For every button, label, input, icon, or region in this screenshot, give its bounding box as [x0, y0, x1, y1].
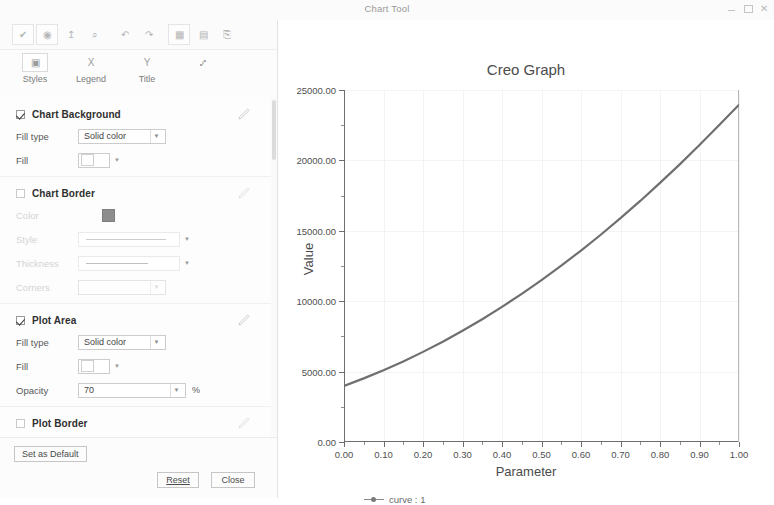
plot-area-title: Plot Area: [32, 315, 76, 326]
x-axis-tick-label: 0.80: [651, 449, 670, 460]
chart-title: Creo Graph: [278, 61, 774, 78]
legend-label: curve : 1: [389, 494, 425, 505]
x-axis-tick: [542, 442, 543, 447]
chart-background-filltype-value: Solid color: [84, 131, 126, 141]
chevron-down-icon[interactable]: ▼: [114, 157, 120, 163]
scrollbar-thumb[interactable]: [272, 100, 276, 160]
x-axis-title: Parameter: [278, 464, 774, 479]
redo-icon[interactable]: ↷: [138, 24, 160, 45]
x-axis-minor-tick: [561, 442, 562, 445]
chart-border-checkbox[interactable]: [16, 189, 25, 198]
tab-title-label: Title: [139, 74, 156, 84]
plot-area-opacity-label: Opacity: [16, 385, 78, 396]
x-axis-tick-label: 0.70: [611, 449, 630, 460]
tab-format[interactable]: ⑇: [182, 53, 224, 84]
panel-tabs: ▣ Styles X Legend Y Title ⑇: [0, 50, 277, 99]
group-chart-background: Chart Background Fill type Solid color ▼…: [0, 98, 277, 176]
plot-area-fill-swatch[interactable]: [78, 359, 110, 374]
apply-check-icon[interactable]: ✔: [12, 24, 34, 45]
title-y-icon: Y: [134, 53, 160, 72]
plot-area-header[interactable]: Plot Area: [0, 312, 277, 328]
set-as-default-button[interactable]: Set as Default: [14, 446, 87, 462]
plot-area-opacity-value: 70: [84, 385, 94, 395]
legend-x-icon: X: [78, 53, 104, 72]
chart-border-style-row: Style ▼: [0, 229, 277, 249]
chart-border-color-row: Color: [0, 205, 277, 225]
plot-area-opacity-input[interactable]: 70 ▼: [78, 383, 186, 398]
data-table-icon[interactable]: ▤: [192, 24, 214, 45]
chevron-down-icon: ▼: [150, 336, 162, 349]
x-axis-tick: [463, 442, 464, 447]
y-axis-title: Value: [301, 243, 316, 275]
x-axis-tick: [344, 442, 345, 447]
chart-border-title: Chart Border: [32, 188, 95, 199]
chart-background-edit-icon[interactable]: [237, 107, 251, 121]
chart-background-fill-label: Fill: [16, 155, 78, 166]
x-axis-tick-label: 1.00: [730, 449, 749, 460]
chart-border-header[interactable]: Chart Border: [0, 185, 277, 201]
reset-button[interactable]: Reset: [157, 472, 199, 488]
x-axis-minor-tick: [364, 442, 365, 445]
chevron-down-icon: ▼: [184, 236, 190, 242]
x-axis-tick-label: 0.40: [493, 449, 512, 460]
reset-button-label: Reset: [166, 475, 190, 485]
axis-scale-icon[interactable]: ↥: [60, 24, 82, 45]
chart-background-fill-swatch[interactable]: [78, 153, 110, 168]
plot-area-filltype-value: Solid color: [84, 337, 126, 347]
chevron-down-icon[interactable]: ▼: [114, 363, 120, 369]
table-view-icon[interactable]: ▦: [168, 24, 190, 45]
x-axis-tick-label: 0.50: [532, 449, 551, 460]
x-axis-minor-tick: [443, 442, 444, 445]
export-icon[interactable]: ⎘: [216, 24, 238, 45]
x-axis-minor-tick: [522, 442, 523, 445]
close-button[interactable]: Close: [211, 472, 255, 488]
close-icon[interactable]: ✕: [759, 4, 768, 13]
plot-border-header[interactable]: Plot Border: [0, 415, 277, 431]
panel-scrollbar[interactable]: [271, 98, 277, 458]
grid-target-icon[interactable]: ◉: [36, 24, 58, 45]
x-axis-tick: [423, 442, 424, 447]
zoom-icon[interactable]: ⌕: [84, 24, 106, 45]
plot-area-edit-icon[interactable]: [237, 313, 251, 327]
maximize-icon[interactable]: [743, 4, 752, 13]
grid-line-vertical: [739, 90, 740, 442]
window-controls: ✕: [727, 4, 768, 13]
chart-border-color-label: Color: [16, 210, 78, 221]
tab-styles-label: Styles: [23, 74, 48, 84]
plot-area-checkbox[interactable]: [16, 316, 25, 325]
chart-background-filltype-select[interactable]: Solid color ▼: [78, 129, 166, 144]
chart-border-edit-icon[interactable]: [237, 186, 251, 200]
chart-background-header[interactable]: Chart Background: [0, 106, 277, 122]
chevron-down-icon: ▼: [150, 130, 162, 143]
plot-area-filltype-select[interactable]: Solid color ▼: [78, 335, 166, 350]
x-axis-minor-tick: [403, 442, 404, 445]
x-axis-tick: [621, 442, 622, 447]
chart-background-filltype-label: Fill type: [16, 131, 78, 142]
title-bar: Chart Tool ✕: [0, 0, 774, 21]
chart-border-corners-label: Corners: [16, 282, 78, 293]
x-axis-tick: [700, 442, 701, 447]
undo-icon[interactable]: ↶: [114, 24, 136, 45]
plot-border-checkbox[interactable]: [16, 419, 25, 428]
chart-background-title: Chart Background: [32, 109, 121, 120]
tab-styles[interactable]: ▣ Styles: [14, 53, 56, 84]
format-icon: ⑇: [190, 53, 216, 72]
plot-border-title: Plot Border: [32, 418, 88, 429]
chart-background-checkbox[interactable]: [16, 110, 25, 119]
x-axis-minor-tick: [719, 442, 720, 445]
x-axis-tick: [502, 442, 503, 447]
chart-border-style-label: Style: [16, 234, 78, 245]
group-chart-border: Chart Border Color Style ▼ Thickness: [0, 176, 277, 303]
tab-legend[interactable]: X Legend: [70, 53, 112, 84]
plot-border-edit-icon[interactable]: [237, 416, 251, 430]
chart-border-corners-row: Corners ▼: [0, 277, 277, 297]
color-swatch: [81, 154, 94, 166]
tab-legend-label: Legend: [76, 74, 106, 84]
plot-area-fill-label: Fill: [16, 361, 78, 372]
x-axis-minor-tick: [640, 442, 641, 445]
tab-title[interactable]: Y Title: [126, 53, 168, 84]
minimize-icon[interactable]: [727, 4, 736, 13]
styles-icon: ▣: [22, 53, 48, 72]
plot-area-opacity-unit: %: [192, 385, 200, 395]
